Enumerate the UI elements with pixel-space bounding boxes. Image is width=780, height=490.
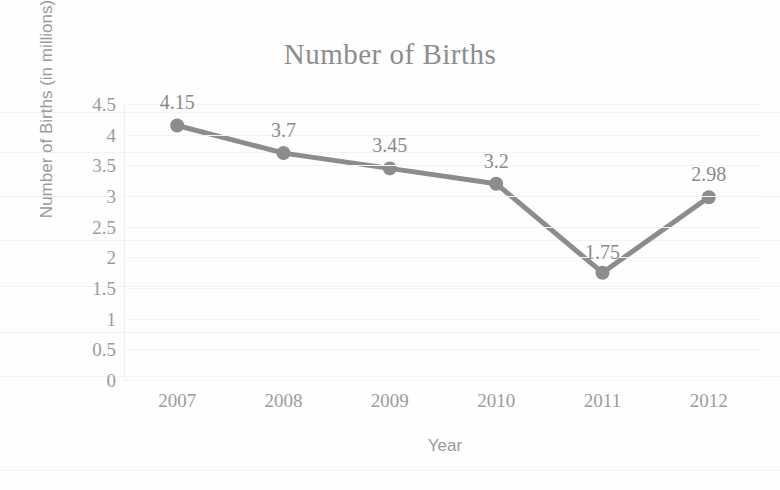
data-point-marker — [702, 190, 716, 204]
x-tick-label: 2012 — [649, 390, 769, 412]
line-series — [124, 104, 762, 380]
chart-title: Number of Births — [0, 38, 780, 71]
y-tick-label: 1.5 — [56, 279, 116, 298]
gridline — [124, 227, 762, 228]
y-tick-label: 4 — [56, 126, 116, 145]
x-tick-label: 2008 — [224, 390, 344, 412]
plot-area — [124, 104, 762, 380]
y-tick-label: 0 — [56, 371, 116, 390]
chart-canvas: Number of Births Number of Births (in mi… — [0, 0, 780, 490]
gridline — [124, 319, 762, 320]
y-tick-label: 2 — [56, 248, 116, 267]
gridline — [124, 380, 762, 381]
gridline — [124, 196, 762, 197]
data-label: 2.98 — [664, 163, 754, 186]
y-tick-label: 3.5 — [56, 156, 116, 175]
x-tick-label: 2007 — [117, 390, 237, 412]
y-tick-label: 0.5 — [56, 340, 116, 359]
y-tick-label: 4.5 — [56, 95, 116, 114]
y-tick-label: 1 — [56, 310, 116, 329]
data-point-marker — [277, 146, 291, 160]
gridline — [124, 135, 762, 136]
y-tick-label: 3 — [56, 187, 116, 206]
gridline — [124, 288, 762, 289]
gridline — [124, 349, 762, 350]
data-point-marker — [383, 161, 397, 175]
data-label: 3.2 — [451, 150, 541, 173]
data-label: 1.75 — [558, 241, 648, 264]
data-point-marker — [489, 177, 503, 191]
gridline — [124, 257, 762, 258]
data-point-marker — [170, 119, 184, 133]
x-axis-title: Year — [110, 436, 780, 456]
data-label: 4.15 — [132, 91, 222, 114]
data-label: 3.45 — [345, 134, 435, 157]
data-point-marker — [596, 266, 610, 280]
data-label: 3.7 — [239, 119, 329, 142]
x-tick-label: 2009 — [330, 390, 450, 412]
y-tick-label: 2.5 — [56, 218, 116, 237]
x-tick-label: 2010 — [436, 390, 556, 412]
x-tick-label: 2011 — [543, 390, 663, 412]
